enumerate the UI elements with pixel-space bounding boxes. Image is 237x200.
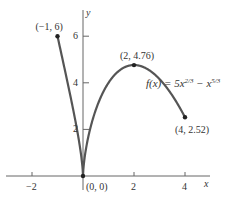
- x-tick-label: 2: [131, 182, 136, 192]
- y-tick-label: 2: [73, 124, 78, 134]
- point-marker: [81, 174, 85, 178]
- point-label: (2, 4.76): [120, 51, 154, 61]
- axes: [6, 10, 210, 190]
- point-label: (0, 0): [86, 182, 108, 192]
- x-tick-label: −2: [26, 182, 37, 192]
- point-marker: [132, 63, 136, 67]
- point-marker: [183, 115, 187, 119]
- x-axis-label: x: [204, 179, 208, 189]
- y-tick-label: 4: [73, 78, 78, 88]
- function-label: f(x) = 5x2/3 − x5/3: [146, 78, 220, 89]
- y-axis-label: y: [86, 8, 90, 18]
- x-tick-label: 4: [182, 182, 187, 192]
- y-tick-label: 6: [73, 31, 78, 41]
- point-marker: [55, 34, 59, 38]
- point-label: (4, 2.52): [175, 125, 209, 135]
- point-label: (−1, 6): [36, 22, 63, 32]
